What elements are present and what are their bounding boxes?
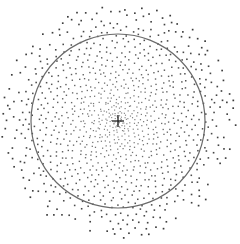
point [119, 122, 120, 123]
point [122, 130, 123, 131]
point [14, 137, 16, 139]
point [186, 58, 188, 60]
point [90, 128, 91, 129]
point [107, 129, 108, 130]
point [114, 110, 115, 111]
point [146, 112, 147, 113]
point [146, 70, 147, 71]
point [177, 195, 179, 197]
point [56, 151, 57, 152]
point [71, 19, 73, 21]
point [106, 162, 107, 163]
point [121, 143, 122, 144]
point [152, 57, 153, 58]
point [89, 221, 91, 223]
point [205, 199, 207, 201]
point [213, 112, 215, 114]
point [28, 123, 30, 125]
point [96, 151, 97, 152]
point [117, 149, 118, 150]
point [112, 60, 113, 61]
point [94, 196, 96, 198]
point [107, 97, 108, 98]
point [115, 71, 116, 72]
point [115, 143, 116, 144]
point [68, 150, 69, 151]
point [145, 98, 146, 99]
point [184, 73, 186, 75]
point [102, 170, 103, 171]
point [113, 180, 114, 181]
point [142, 77, 143, 78]
point [58, 132, 59, 133]
point [161, 197, 163, 199]
point [178, 67, 180, 69]
point [118, 139, 119, 140]
point [135, 19, 137, 21]
point [143, 136, 144, 137]
point [72, 114, 73, 115]
point [97, 141, 98, 142]
point [216, 86, 218, 88]
point [90, 103, 91, 104]
point [127, 92, 128, 93]
point [104, 187, 105, 188]
point [182, 67, 184, 69]
point [197, 101, 199, 103]
point [169, 15, 171, 17]
point [120, 61, 121, 62]
point [123, 165, 124, 166]
point [101, 64, 102, 65]
point [119, 192, 120, 193]
point [78, 24, 80, 26]
point [104, 129, 105, 130]
point [42, 140, 43, 141]
point [80, 109, 81, 110]
point [137, 129, 138, 130]
point [16, 60, 18, 62]
point [50, 161, 52, 163]
point [19, 119, 21, 121]
point [118, 223, 120, 225]
point [148, 74, 149, 75]
point [161, 41, 163, 43]
point [139, 69, 140, 70]
point [179, 101, 180, 102]
point [38, 99, 40, 101]
point [133, 169, 134, 170]
point [109, 113, 110, 114]
point [100, 94, 101, 95]
point [161, 63, 162, 64]
point [205, 54, 207, 56]
point [71, 176, 72, 177]
point [155, 226, 157, 228]
point [214, 102, 216, 104]
point [184, 151, 185, 152]
point [218, 144, 220, 146]
point [119, 108, 120, 109]
point [138, 96, 139, 97]
point [89, 215, 91, 217]
point [168, 80, 169, 81]
point [124, 9, 126, 11]
point [93, 130, 94, 131]
point [174, 167, 175, 168]
point [162, 92, 163, 93]
point [112, 40, 114, 42]
point [148, 60, 149, 61]
point [221, 90, 223, 92]
point [93, 43, 95, 45]
point [60, 143, 61, 144]
point [100, 74, 101, 75]
point [77, 189, 79, 191]
point [50, 91, 51, 92]
point [70, 197, 72, 199]
point [94, 87, 95, 88]
point [199, 195, 201, 197]
point [123, 79, 124, 80]
point [107, 136, 108, 137]
point [72, 163, 73, 164]
point [80, 143, 81, 144]
point [158, 71, 159, 72]
point [49, 200, 51, 202]
